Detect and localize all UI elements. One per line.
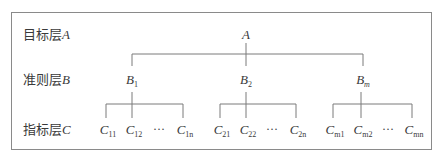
node-criterion: Bm xyxy=(356,73,370,92)
node-base: C xyxy=(405,122,414,137)
node-indicator: Cm1 xyxy=(326,123,345,142)
node-criterion: B2 xyxy=(240,73,252,92)
node-base: B xyxy=(356,72,364,87)
level-label-indicator: 指标层C xyxy=(23,123,71,137)
level-variable: C xyxy=(62,122,71,137)
level-label-text: 目标层 xyxy=(23,27,62,42)
node-subscript: 2 xyxy=(248,80,252,89)
node-subscript: 12 xyxy=(134,130,142,139)
node-base: C xyxy=(177,122,186,137)
node-base: C xyxy=(326,122,335,137)
node-base: C xyxy=(126,122,135,137)
node-subscript: 1n xyxy=(185,130,193,139)
node-indicator: C11 xyxy=(100,123,116,142)
node-base: C xyxy=(240,122,249,137)
level-label-goal: 目标层A xyxy=(23,28,70,42)
level-variable: A xyxy=(62,27,70,42)
node-base: C xyxy=(100,122,109,137)
level-label-text: 准则层 xyxy=(23,72,62,87)
node-subscript: mn xyxy=(413,130,423,139)
node-base: C xyxy=(290,122,299,137)
node-indicator: C1n xyxy=(177,123,194,142)
node-indicator: C2n xyxy=(290,123,307,142)
node-subscript: 11 xyxy=(108,130,116,139)
level-label-text: 指标层 xyxy=(23,122,62,137)
node-criterion: B1 xyxy=(126,73,138,92)
ellipsis: ··· xyxy=(153,122,165,136)
node-indicator: C12 xyxy=(126,123,143,142)
node-indicator: Cm2 xyxy=(354,123,373,142)
node-base: B xyxy=(240,72,248,87)
node-indicator: C22 xyxy=(240,123,257,142)
level-label-criteria: 准则层B xyxy=(23,73,70,87)
node-subscript: 1 xyxy=(134,80,138,89)
node-subscript: m xyxy=(364,80,370,89)
node-subscript: m2 xyxy=(362,130,372,139)
node-subscript: 21 xyxy=(222,130,230,139)
node-base: B xyxy=(126,72,134,87)
node-subscript: m1 xyxy=(334,130,344,139)
node-indicator: Cmn xyxy=(405,123,424,142)
ellipsis: ··· xyxy=(382,122,394,136)
node-root: A xyxy=(242,28,250,42)
node-base: C xyxy=(354,122,363,137)
node-base: C xyxy=(214,122,223,137)
node-indicator: C21 xyxy=(214,123,231,142)
ellipsis: ··· xyxy=(266,122,278,136)
node-subscript: 2n xyxy=(298,130,306,139)
node-subscript: 22 xyxy=(248,130,256,139)
level-variable: B xyxy=(62,72,70,87)
